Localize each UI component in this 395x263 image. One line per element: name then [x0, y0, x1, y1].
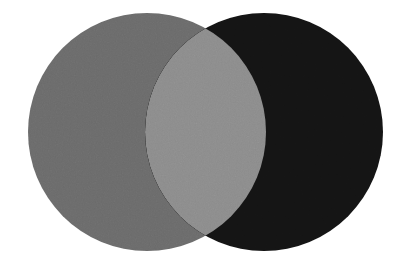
venn-diagram-canvas: [0, 0, 395, 263]
venn-diagram-figure: [0, 0, 395, 263]
